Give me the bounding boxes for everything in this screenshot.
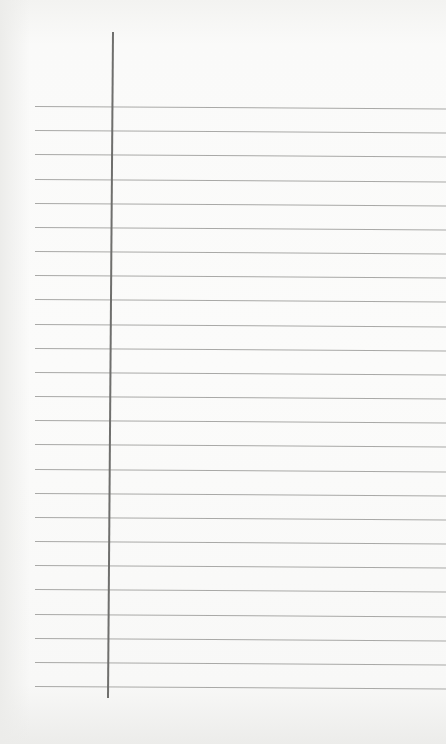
ruled-line	[35, 444, 446, 448]
ruled-line	[35, 324, 446, 328]
ruled-line	[35, 614, 446, 618]
ruled-line	[35, 493, 446, 497]
ruled-line	[35, 154, 446, 158]
ruled-line	[35, 565, 446, 569]
ruled-line	[35, 179, 446, 183]
ruled-line	[35, 299, 446, 303]
ruled-line	[35, 517, 446, 521]
ruled-line	[35, 662, 446, 666]
ruled-line	[35, 227, 446, 231]
ruled-line	[35, 589, 446, 593]
ruled-line	[35, 541, 446, 545]
margin-line	[107, 32, 113, 698]
ruled-line	[35, 251, 446, 255]
ruled-line	[35, 396, 446, 400]
ruled-paper-sheet	[0, 0, 446, 744]
ruled-line	[35, 469, 446, 473]
ruled-line	[35, 275, 446, 279]
ruled-line	[35, 686, 446, 690]
ruled-line	[35, 130, 446, 134]
ruled-line	[35, 203, 446, 207]
ruled-line	[35, 372, 446, 376]
ruled-line	[35, 638, 446, 642]
ruled-line	[35, 106, 446, 110]
ruled-line	[35, 420, 446, 424]
ruled-line	[35, 348, 446, 352]
